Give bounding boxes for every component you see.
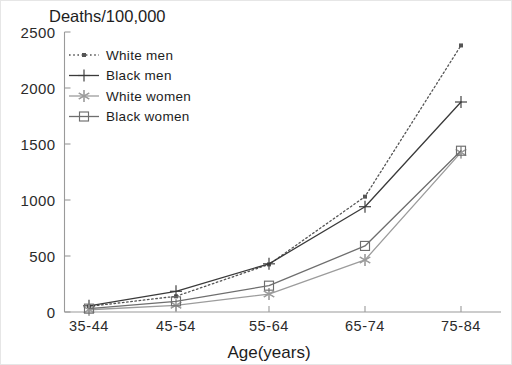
marker-filled-square <box>363 195 367 199</box>
y-tick-label: 500 <box>29 248 55 265</box>
x-tick-label: 45-54 <box>156 318 196 334</box>
chart-title: Deaths/100,000 <box>49 7 166 25</box>
legend-label: White women <box>106 89 191 104</box>
line-chart-canvas: Deaths/100,000 05001000150020002500 35-4… <box>1 1 512 365</box>
y-axis-ticks: 05001000150020002500 <box>21 24 71 321</box>
legend-label: Black men <box>106 68 172 83</box>
x-tick-label: 55-64 <box>249 318 289 334</box>
x-tick-label: 75-84 <box>441 318 481 334</box>
y-tick-label: 2500 <box>21 24 56 41</box>
x-tick-label: 35-44 <box>69 318 109 334</box>
marker-filled-square <box>82 53 86 57</box>
legend-label: Black women <box>106 109 190 124</box>
chart-legend: White menBlack menWhite womenBlack women <box>69 48 191 125</box>
x-axis-title: Age(years) <box>227 343 310 362</box>
y-tick-label: 1500 <box>21 136 56 153</box>
chart-figure: Deaths/100,000 05001000150020002500 35-4… <box>0 0 512 365</box>
series-line-white-men <box>89 45 461 306</box>
y-tick-label: 1000 <box>21 192 56 209</box>
marker-filled-square <box>459 43 463 47</box>
x-tick-label: 65-74 <box>345 318 385 334</box>
legend-label: White men <box>106 48 173 63</box>
y-tick-label: 2000 <box>21 80 56 97</box>
y-tick-label: 0 <box>47 304 56 321</box>
x-axis-ticks: 35-4445-5455-6465-7475-84 <box>69 306 481 334</box>
series-line-black-women <box>89 151 461 309</box>
series-line-white-women <box>89 152 461 309</box>
series-layer <box>83 43 467 315</box>
